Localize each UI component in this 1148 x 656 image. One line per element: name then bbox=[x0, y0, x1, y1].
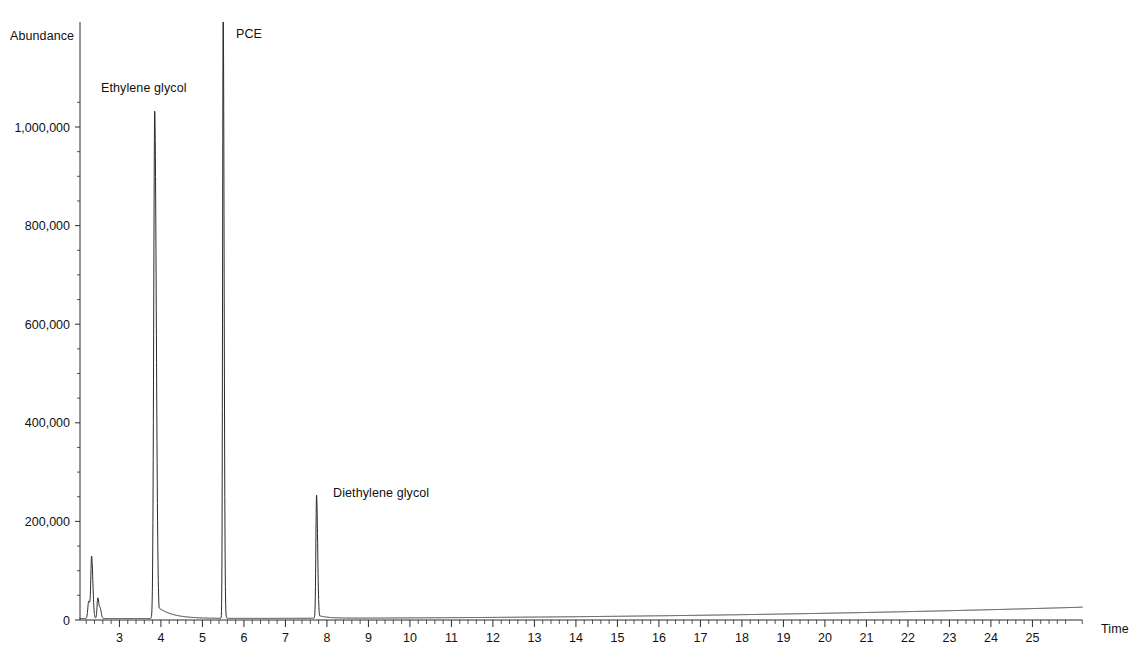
x-tick-label: 25 bbox=[1025, 631, 1039, 645]
x-tick-label: 13 bbox=[527, 631, 541, 645]
y-tick-label: 0 bbox=[63, 614, 70, 628]
chromatogram-trace bbox=[80, 22, 1082, 619]
x-tick-label: 3 bbox=[116, 631, 123, 645]
y-tick-label: 1,000,000 bbox=[14, 121, 70, 135]
x-tick-label: 19 bbox=[776, 631, 790, 645]
x-tick-label: 21 bbox=[859, 631, 873, 645]
x-tick-label: 24 bbox=[984, 631, 998, 645]
chromatogram-figure: Abundance Time Ethylene glycol PCE Dieth… bbox=[0, 0, 1148, 656]
x-tick-label: 23 bbox=[942, 631, 956, 645]
x-tick-label: 10 bbox=[403, 631, 417, 645]
x-tick-labels: 345678910111213141516171819202122232425 bbox=[116, 631, 1039, 645]
x-tick-label: 22 bbox=[901, 631, 915, 645]
x-tick-label: 8 bbox=[323, 631, 330, 645]
x-tick-label: 12 bbox=[486, 631, 500, 645]
x-tick-label: 15 bbox=[610, 631, 624, 645]
x-axis bbox=[80, 620, 1082, 627]
y-tick-label: 400,000 bbox=[25, 416, 70, 430]
x-tick-label: 18 bbox=[735, 631, 749, 645]
x-tick-label: 17 bbox=[693, 631, 707, 645]
y-tick-label: 200,000 bbox=[25, 515, 70, 529]
y-tick-label: 600,000 bbox=[25, 318, 70, 332]
y-axis bbox=[75, 22, 80, 620]
x-tick-label: 4 bbox=[157, 631, 164, 645]
x-tick-label: 9 bbox=[365, 631, 372, 645]
x-tick-label: 20 bbox=[818, 631, 832, 645]
x-tick-label: 11 bbox=[445, 631, 458, 645]
x-tick-label: 16 bbox=[652, 631, 666, 645]
y-tick-label: 800,000 bbox=[25, 219, 70, 233]
x-tick-label: 14 bbox=[569, 631, 583, 645]
y-tick-labels: 0200,000400,000600,000800,0001,000,000 bbox=[14, 121, 70, 628]
x-tick-label: 6 bbox=[240, 631, 247, 645]
x-tick-label: 7 bbox=[282, 631, 289, 645]
x-tick-label: 5 bbox=[199, 631, 206, 645]
chromatogram-plot: 0200,000400,000600,000800,0001,000,000 3… bbox=[0, 0, 1148, 656]
